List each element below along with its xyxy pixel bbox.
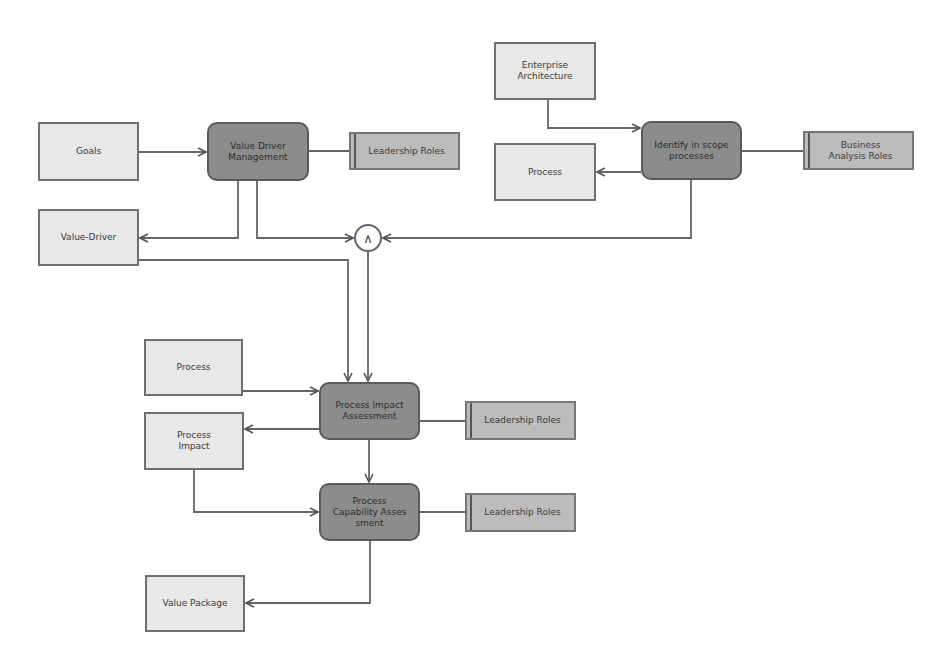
node-value-package[interactable]: Value Package xyxy=(145,575,245,632)
node-leadership-roles-3[interactable]: Leadership Roles xyxy=(465,493,576,532)
node-process-impact[interactable]: Process Impact xyxy=(144,412,244,470)
edge-vdm-to-and xyxy=(257,181,353,238)
and-gate-icon[interactable]: ∧ xyxy=(354,224,382,252)
node-value-driver-management[interactable]: Value Driver Management xyxy=(207,122,309,181)
node-enterprise-architecture[interactable]: Enterprise Architecture xyxy=(494,42,596,100)
node-value-driver[interactable]: Value-Driver xyxy=(38,209,139,266)
node-leadership-roles-2[interactable]: Leadership Roles xyxy=(465,401,576,440)
node-process-impact-assessment[interactable]: Process Impact Assessment xyxy=(319,382,420,440)
node-process-mid[interactable]: Process xyxy=(144,339,243,396)
node-goals[interactable]: Goals xyxy=(38,122,139,181)
node-leadership-roles-1[interactable]: Leadership Roles xyxy=(349,132,460,170)
node-identify-in-scope-processes[interactable]: Identify in scope processes xyxy=(641,121,742,180)
node-process-capability-assessment[interactable]: Process Capability Asses sment xyxy=(319,483,420,541)
edge-ea-to-identify xyxy=(548,100,640,128)
edge-pca-to-value-package xyxy=(246,541,370,603)
edge-vdm-to-value-driver xyxy=(140,181,238,238)
connectors xyxy=(0,0,943,661)
edge-process-impact-to-pca xyxy=(194,470,318,512)
node-process-top[interactable]: Process xyxy=(494,143,596,201)
process-diagram: Goals Value Driver Management Leadership… xyxy=(0,0,943,661)
node-business-analysis-roles[interactable]: Business Analysis Roles xyxy=(803,131,914,170)
